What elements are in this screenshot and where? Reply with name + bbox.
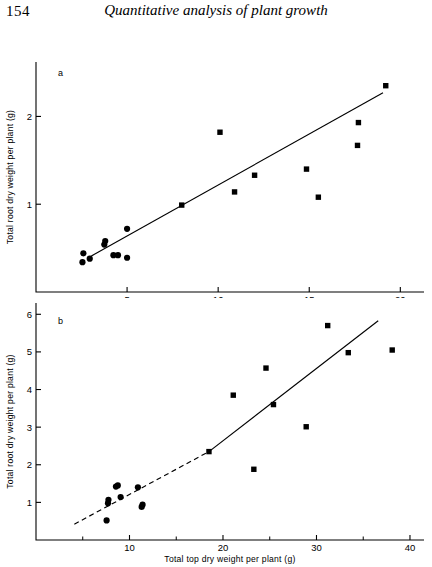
- running-head: Quantitative analysis of plant growth: [0, 2, 432, 19]
- x-axis-title: Total top dry weight per plant (g): [164, 554, 295, 564]
- data-point-circle: [79, 259, 85, 265]
- data-point-circle: [139, 502, 145, 508]
- data-point-circle: [102, 238, 108, 244]
- y-tick-label: 5: [27, 346, 32, 357]
- data-point-square: [206, 449, 211, 454]
- regression-line-extrapolated: [74, 452, 209, 525]
- scatter-plot-b: 10203040123456bTotal top dry weight per …: [0, 296, 432, 567]
- data-point-square: [263, 365, 268, 370]
- data-point-square: [232, 189, 237, 194]
- data-point-circle: [124, 255, 130, 261]
- panel-label: b: [58, 316, 63, 326]
- figure-panel-b: 10203040123456bTotal top dry weight per …: [0, 296, 432, 567]
- data-point-square: [346, 350, 351, 355]
- data-point-square: [251, 467, 256, 472]
- regression-line: [209, 321, 378, 452]
- y-tick-label: 2: [27, 459, 32, 470]
- data-point-square: [390, 347, 395, 352]
- y-tick-label: 3: [27, 422, 32, 433]
- data-point-square: [303, 424, 308, 429]
- plot-axes: [36, 303, 424, 540]
- data-point-circle: [87, 256, 93, 262]
- data-point-square: [179, 202, 184, 207]
- y-tick-label: 4: [27, 384, 32, 395]
- data-point-circle: [105, 497, 111, 503]
- data-point-square: [325, 323, 330, 328]
- y-tick-label: 1: [27, 199, 32, 210]
- x-tick-label: 10: [124, 542, 135, 553]
- x-tick-label: 30: [311, 542, 322, 553]
- regression-line: [90, 93, 383, 257]
- data-point-circle: [118, 494, 124, 500]
- plot-axes: [36, 62, 424, 292]
- y-tick-label: 1: [27, 497, 32, 508]
- y-tick-label: 6: [27, 309, 32, 320]
- data-point-square: [356, 120, 361, 125]
- data-point-square: [231, 392, 236, 397]
- y-axis-title: Total root dry weight per plant (g): [5, 354, 15, 488]
- data-point-circle: [115, 482, 121, 488]
- x-tick-label: 20: [218, 542, 229, 553]
- data-point-square: [355, 143, 360, 148]
- data-point-square: [383, 83, 388, 88]
- data-point-circle: [103, 517, 109, 523]
- data-point-circle: [135, 484, 141, 490]
- data-point-circle: [80, 250, 86, 256]
- data-point-square: [304, 166, 309, 171]
- panel-label: a: [58, 68, 63, 78]
- scatter-plot-a: 510152012aTotal top dry weight per plant…: [0, 26, 432, 298]
- y-tick-label: 2: [27, 111, 32, 122]
- data-point-square: [271, 402, 276, 407]
- x-tick-label: 40: [405, 542, 416, 553]
- figure-panel-a: 510152012aTotal top dry weight per plant…: [0, 26, 432, 298]
- y-axis-title: Total root dry weight per plant (g): [5, 110, 15, 244]
- data-point-square: [217, 130, 222, 135]
- data-point-circle: [115, 252, 121, 258]
- data-point-square: [252, 173, 257, 178]
- data-point-circle: [124, 226, 130, 232]
- page-header: 154 Quantitative analysis of plant growt…: [0, 0, 432, 26]
- data-point-square: [316, 194, 321, 199]
